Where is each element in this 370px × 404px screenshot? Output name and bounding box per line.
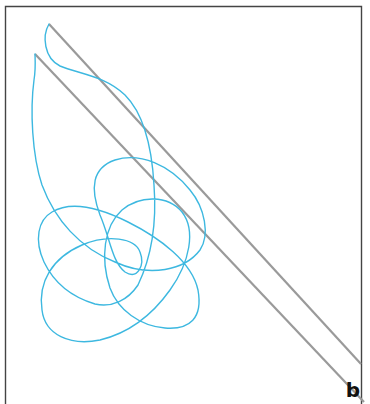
panel-label: b xyxy=(346,380,360,400)
lower-diagonal-line xyxy=(35,54,364,402)
upper-diagonal-line xyxy=(49,24,361,364)
figure-panel: b xyxy=(0,0,370,404)
trajectory-curve xyxy=(32,24,205,342)
diagram-canvas xyxy=(0,0,370,404)
